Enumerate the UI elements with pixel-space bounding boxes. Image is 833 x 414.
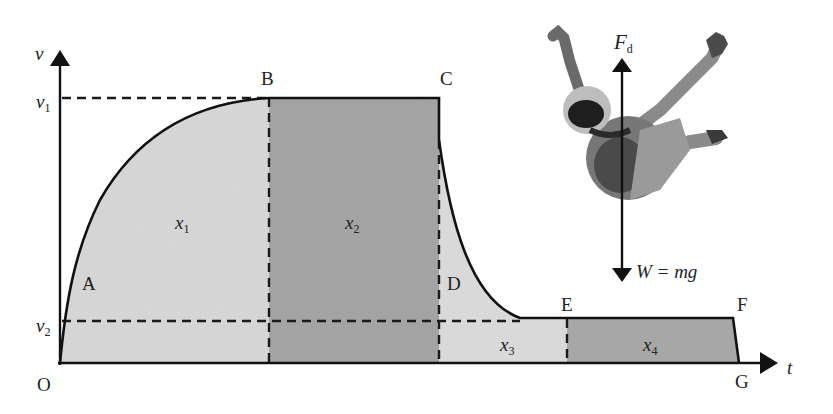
point-D-label: D [447, 274, 461, 293]
v2-level-label: v2 [36, 316, 50, 338]
point-F-label: F [737, 295, 748, 314]
point-G-label: G [735, 372, 749, 391]
x-axis-label: t [787, 358, 792, 377]
drag-force-arrow-icon [612, 58, 632, 72]
skydiver-illustration [553, 32, 728, 200]
v1-level-label: v1 [36, 92, 50, 114]
y-axis-arrow-icon [50, 50, 70, 66]
region-x1 [60, 98, 269, 363]
weight-force-label: W = mg [636, 262, 697, 281]
point-E-label: E [561, 295, 573, 314]
area-x2-label: x2 [345, 213, 359, 235]
origin-label: O [37, 375, 51, 394]
area-x4-label: x4 [643, 335, 657, 357]
velocity-time-graph [0, 0, 833, 414]
y-axis-label: v [35, 44, 43, 63]
x-axis-arrow-icon [760, 352, 778, 374]
weight-force-arrow-icon [612, 268, 632, 282]
point-B-label: B [261, 69, 274, 88]
area-x3-label: x3 [500, 335, 514, 357]
point-C-label: C [440, 69, 453, 88]
drag-force-label: Fd [614, 32, 633, 55]
area-x1-label: x1 [175, 213, 189, 235]
point-A-label: A [82, 274, 96, 293]
